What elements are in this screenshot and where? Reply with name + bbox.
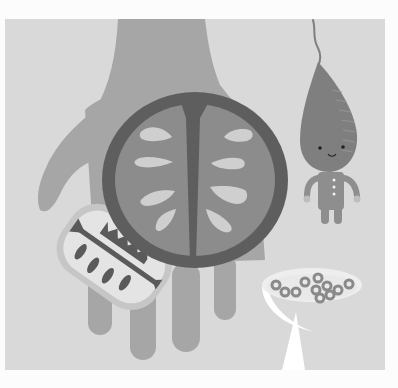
character-eye-left xyxy=(318,146,322,150)
character-button xyxy=(333,186,336,189)
scene xyxy=(0,0,398,388)
character-hand-left xyxy=(304,196,311,203)
illustration-canvas: Grayscale illustration of a large hand h… xyxy=(0,0,398,388)
character-button xyxy=(333,193,336,196)
character-eye-right xyxy=(341,145,345,149)
halved-fruit xyxy=(102,92,288,268)
finger-3 xyxy=(172,262,200,352)
character-hand-right xyxy=(354,196,361,203)
character-button xyxy=(333,179,336,182)
